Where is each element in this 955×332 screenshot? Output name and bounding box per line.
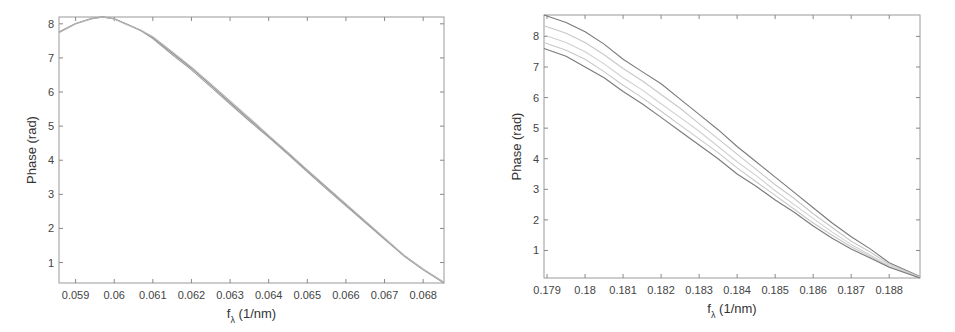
x-tick-label: 0.186: [799, 284, 827, 296]
x-tick-label: 0.064: [255, 289, 283, 301]
x-axis-label: fλ (1/nm): [227, 306, 276, 325]
x-tick-label: 0.181: [609, 284, 637, 296]
x-tick-label: 0.184: [723, 284, 751, 296]
x-tick-label: 0.179: [533, 284, 561, 296]
y-tick-label: 1: [48, 257, 54, 269]
x-tick-label: 0.059: [62, 289, 90, 301]
y-tick-label: 8: [533, 30, 539, 42]
x-tick-label: 0.065: [294, 289, 322, 301]
x-tick-label: 0.183: [685, 284, 713, 296]
y-axis-label: Phase (rad): [24, 116, 39, 184]
y-tick-label: 5: [48, 120, 54, 132]
x-tick-label: 0.061: [139, 289, 167, 301]
y-tick-label: 2: [533, 214, 539, 226]
x-tick-label: 0.18: [574, 284, 595, 296]
y-tick-label: 3: [48, 188, 54, 200]
x-tick-label: 0.062: [178, 289, 206, 301]
y-tick-label: 4: [533, 153, 539, 165]
x-tick-label: 0.182: [647, 284, 675, 296]
x-tick-label: 0.068: [409, 289, 437, 301]
phase-chart-right: 0.1790.180.1810.1820.1830.1840.1850.1860…: [477, 0, 955, 332]
y-tick-label: 7: [533, 61, 539, 73]
x-tick-label: 0.187: [837, 284, 865, 296]
x-tick-label: 0.066: [332, 289, 360, 301]
y-tick-label: 6: [533, 92, 539, 104]
y-tick-label: 4: [48, 154, 54, 166]
x-tick-label: 0.067: [371, 289, 399, 301]
y-tick-label: 3: [533, 183, 539, 195]
y-axis-label: Phase (rad): [509, 113, 524, 181]
x-tick-label: 0.185: [761, 284, 789, 296]
phase-chart-left: 0.0590.060.0610.0620.0630.0640.0650.0660…: [0, 0, 477, 332]
y-tick-label: 1: [533, 244, 539, 256]
x-tick-label: 0.188: [875, 284, 903, 296]
y-tick-label: 2: [48, 222, 54, 234]
chart-left-svg: 0.0590.060.0610.0620.0630.0640.0650.0660…: [0, 0, 477, 332]
y-tick-label: 8: [48, 18, 54, 30]
plot-area: [59, 17, 444, 283]
y-tick-label: 5: [533, 122, 539, 134]
x-axis-label: fλ (1/nm): [707, 301, 756, 320]
x-tick-label: 0.06: [104, 289, 125, 301]
chart-right-svg: 0.1790.180.1810.1820.1830.1840.1850.1860…: [477, 0, 955, 332]
y-tick-label: 6: [48, 86, 54, 98]
y-tick-label: 7: [48, 52, 54, 64]
plot-area: [544, 15, 920, 278]
x-tick-label: 0.063: [216, 289, 244, 301]
